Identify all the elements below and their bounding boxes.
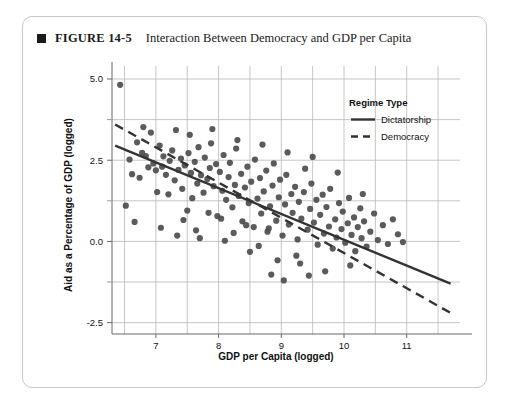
square-bullet-icon bbox=[37, 34, 46, 43]
figure-title: Interaction Between Democracy and GDP pe… bbox=[146, 31, 411, 46]
figure-card: FIGURE 14-5 Interaction Between Democrac… bbox=[22, 16, 487, 388]
figure-header: FIGURE 14-5 Interaction Between Democrac… bbox=[37, 31, 411, 46]
figure-number: FIGURE 14-5 bbox=[55, 31, 132, 46]
